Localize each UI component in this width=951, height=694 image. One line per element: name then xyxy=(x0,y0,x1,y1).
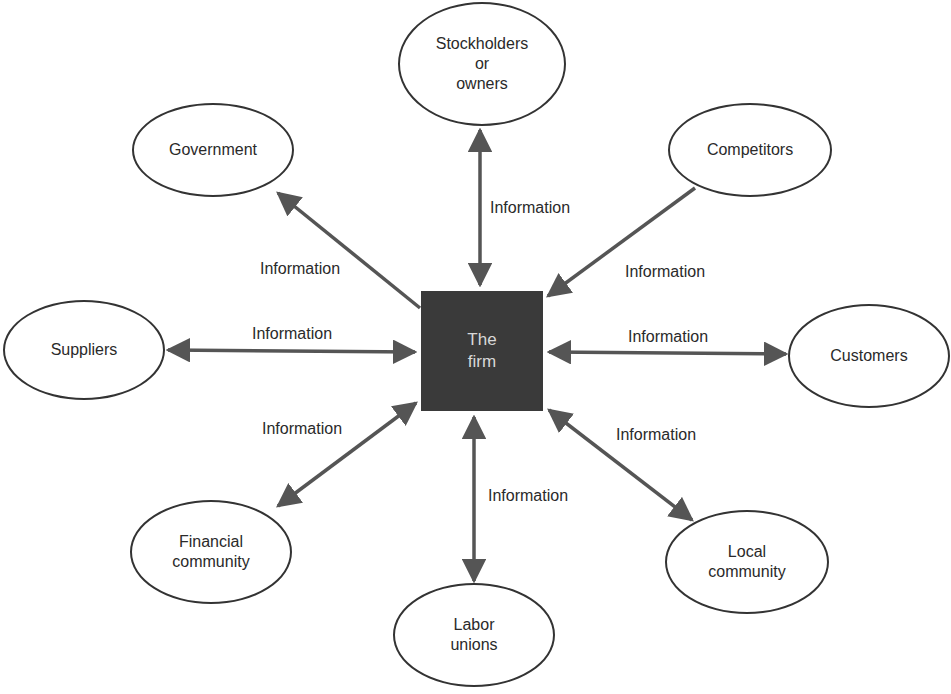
arrow-government xyxy=(278,193,420,308)
node-stockholders: Stockholders or owners xyxy=(398,2,566,126)
label-local: Information xyxy=(616,426,696,444)
label-government: Information xyxy=(260,260,340,278)
node-government: Government xyxy=(132,103,294,197)
node-customers: Customers xyxy=(788,304,950,408)
node-financial: Financial community xyxy=(130,500,292,604)
node-suppliers: Suppliers xyxy=(3,300,165,400)
arrow-financial xyxy=(278,403,416,506)
node-local: Local community xyxy=(665,510,829,614)
label-stockholders: Information xyxy=(490,199,570,217)
label-labor: Information xyxy=(488,487,568,505)
label-suppliers: Information xyxy=(252,325,332,343)
label-customers: Information xyxy=(628,328,708,346)
arrow-customers xyxy=(549,352,786,354)
label-competitors: Information xyxy=(625,263,705,281)
node-competitors: Competitors xyxy=(668,103,832,197)
label-financial: Information xyxy=(262,420,342,438)
node-labor: Labor unions xyxy=(393,583,555,687)
arrow-suppliers xyxy=(168,350,415,352)
firm-box: The firm xyxy=(421,291,543,411)
